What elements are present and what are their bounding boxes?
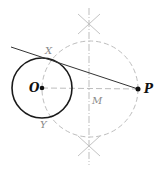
segment-op [42, 88, 138, 89]
label-o: O [29, 81, 40, 95]
label-p: P [143, 82, 154, 96]
label-y: Y [40, 119, 48, 130]
label-m: M [91, 95, 103, 106]
point-o [40, 86, 45, 91]
label-x: X [44, 45, 53, 56]
tangent-construction-diagram: O P M X Y [0, 0, 160, 169]
point-p [136, 87, 141, 92]
